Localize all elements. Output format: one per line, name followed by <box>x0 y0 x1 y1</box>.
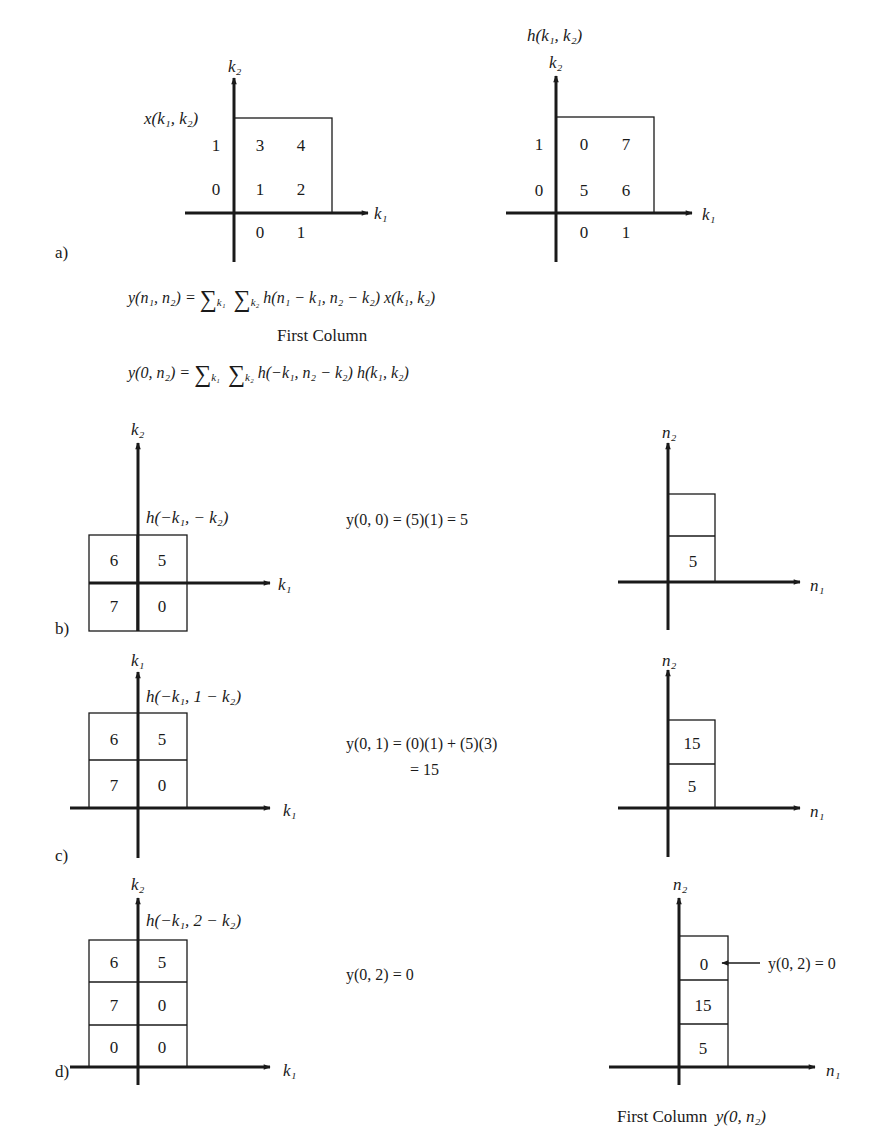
sum-index-k2: k₂ <box>251 296 260 308</box>
cell-value: 6 <box>99 552 129 569</box>
convolution-lhs: y(n₁, n₂) = <box>128 289 196 306</box>
x-plot-y-tick-0: 0 <box>201 181 231 198</box>
panel-c-right-axes <box>618 670 800 857</box>
x-value: 3 <box>245 137 275 154</box>
sum-index-k1: k₁ <box>211 371 220 383</box>
output-cell: 5 <box>678 553 708 570</box>
x-plot-y-tick-1: 1 <box>201 137 231 154</box>
panel-b-right-y-axis: n₂ <box>662 424 676 441</box>
panel-d-left-x-axis: k₁ <box>283 1062 296 1079</box>
sum-symbol: ∑ <box>200 286 217 312</box>
panel-d-right-y-axis: n₂ <box>673 876 687 893</box>
cell-value: 0 <box>147 1039 177 1056</box>
sum-symbol: ∑ <box>234 286 251 312</box>
panel-d-left-y-axis: k₂ <box>131 876 144 893</box>
first-column-caption: First Column y(0, n₂) <box>617 1108 766 1125</box>
x-value: 4 <box>286 137 316 154</box>
first-column-rhs: h(−k₁, n₂ − k₂) h(k₁, k₂) <box>258 364 409 381</box>
sum-index-k1: k₁ <box>217 296 226 308</box>
output-cell: 15 <box>677 735 707 752</box>
x-plot-title: x(k₁, k₂) <box>144 110 198 127</box>
cell-value: 0 <box>99 1039 129 1056</box>
panel-c-equation-line1: y(0, 1) = (0)(1) + (5)(3) <box>346 736 497 752</box>
h-value: 7 <box>611 136 641 153</box>
panel-b-left-caption: h(−k₁, − k₂) <box>146 509 228 526</box>
cell-value: 5 <box>147 954 177 971</box>
h-plot-y-tick-0: 0 <box>524 182 554 199</box>
sum-symbol: ∑ <box>228 361 245 387</box>
panel-c-left-x-axis: k₁ <box>283 802 296 819</box>
cell-value: 7 <box>99 598 129 615</box>
first-column-caption-text: First Column <box>617 1107 707 1126</box>
h-plot-x-tick-1: 1 <box>611 224 641 241</box>
cell-value: 7 <box>99 777 129 794</box>
cell-value: 7 <box>99 997 129 1014</box>
panel-b-right-x-axis: n₁ <box>810 577 824 594</box>
panel-b-right-axes <box>618 443 800 630</box>
panel-c-label: c) <box>55 847 68 864</box>
x-plot-x-tick-0: 0 <box>245 224 275 241</box>
first-column-lhs: y(0, n₂) = <box>128 364 190 381</box>
h-plot-title: h(k₁, k₂) <box>527 27 582 44</box>
cell-value: 0 <box>147 598 177 615</box>
h-plot-y-axis-label: k₂ <box>549 54 562 71</box>
output-cell: 5 <box>677 778 707 795</box>
output-cell: 15 <box>688 997 718 1014</box>
cell-value: 6 <box>99 731 129 748</box>
h-value: 5 <box>569 182 599 199</box>
panel-c-equation-line2: = 15 <box>410 762 439 778</box>
panel-c-right-y-axis: n₂ <box>662 652 676 669</box>
x-plot-y-axis-label: k₂ <box>228 58 241 75</box>
cell-value: 6 <box>99 954 129 971</box>
panel-a-label: a) <box>55 244 68 261</box>
diagram-linework <box>0 0 885 1135</box>
cell-value: 5 <box>147 552 177 569</box>
panel-c-right-x-axis: n₁ <box>810 803 824 820</box>
h-plot-x-axis-label: k₁ <box>702 206 715 223</box>
h-plot-axes <box>506 76 692 262</box>
panel-b-left-y-axis: k₂ <box>131 421 144 438</box>
panel-d-label: d) <box>55 1063 69 1080</box>
output-cell: 0 <box>689 956 719 973</box>
x-value: 1 <box>245 181 275 198</box>
panel-c-left-caption: h(−k₁, 1 − k₂) <box>146 688 241 705</box>
panel-b-left-x-axis: k₁ <box>278 576 291 593</box>
panel-d-right-x-axis: n₁ <box>826 1062 840 1079</box>
panel-b-label: b) <box>55 620 69 637</box>
x-value: 2 <box>286 181 316 198</box>
first-column-caption-symbol: y(0, n₂) <box>716 1107 766 1126</box>
h-value: 6 <box>611 182 641 199</box>
output-annotation: y(0, 2) = 0 <box>768 956 836 972</box>
x-plot-axes <box>185 78 368 262</box>
first-column-equation: y(0, n₂) = ∑k₁ ∑k₂ h(−k₁, n₂ − k₂) h(k₁,… <box>128 362 409 386</box>
cell-value: 5 <box>147 731 177 748</box>
cell-value: 0 <box>147 777 177 794</box>
h-plot-x-tick-0: 0 <box>569 224 599 241</box>
convolution-equation: y(n₁, n₂) = ∑k₁ ∑k₂ h(n₁ − k₁, n₂ − k₂) … <box>128 287 435 311</box>
convolution-rhs: h(n₁ − k₁, n₂ − k₂) x(k₁, k₂) <box>263 289 435 306</box>
h-plot-y-tick-1: 1 <box>524 136 554 153</box>
output-cell: 5 <box>688 1040 718 1057</box>
panel-c-left-y-axis: k₁ <box>131 652 144 669</box>
panel-b-equation: y(0, 0) = (5)(1) = 5 <box>346 512 468 528</box>
sum-symbol: ∑ <box>194 361 211 387</box>
panel-d-equation: y(0, 2) = 0 <box>346 967 414 983</box>
first-column-heading: First Column <box>277 327 367 344</box>
sum-index-k2: k₂ <box>245 371 254 383</box>
x-plot-x-tick-1: 1 <box>286 224 316 241</box>
x-plot-x-axis-label: k₁ <box>374 205 387 222</box>
panel-d-left-caption: h(−k₁, 2 − k₂) <box>146 912 241 929</box>
h-value: 0 <box>569 136 599 153</box>
cell-value: 0 <box>147 997 177 1014</box>
